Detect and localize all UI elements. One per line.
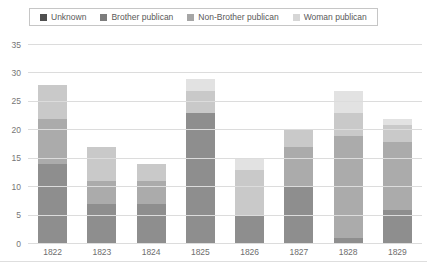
x-axis-tick-label: 1822	[28, 248, 77, 257]
plot-area: 18221823182418251826182718281829 0510152…	[28, 45, 422, 244]
bar-segment-woman-publican-1825	[186, 79, 215, 90]
bar-segment-brother-publican-1824	[137, 181, 166, 204]
gridline	[28, 158, 422, 159]
bar-stack-1826	[235, 159, 264, 244]
bar-stack-1822	[38, 85, 67, 244]
y-axis-tick-label: 0	[1, 240, 21, 249]
legend-label-brother-publican: Brother publican	[111, 12, 173, 22]
legend-item-non-brother-publican: Non-Brother publican	[187, 12, 278, 22]
gridline	[28, 72, 422, 73]
y-axis-tick-label: 25	[1, 97, 21, 106]
x-axis-tick-label: 1823	[77, 248, 126, 257]
bar-segment-unknown-1822	[38, 164, 67, 244]
legend-swatch-non-brother-publican	[187, 14, 194, 21]
x-axis-tick-label: 1824	[127, 248, 176, 257]
gridline	[28, 215, 422, 216]
bar-segment-brother-publican-1828	[334, 136, 363, 238]
x-axis-tick-label: 1827	[274, 248, 323, 257]
legend: Unknown Brother publican Non-Brother pub…	[29, 8, 378, 26]
gridline	[28, 101, 422, 102]
bar-segment-non-brother-publican-1828	[334, 113, 363, 136]
bar-stack-1823	[87, 147, 116, 244]
gridline	[28, 129, 422, 130]
y-axis-tick-label: 5	[1, 211, 21, 220]
legend-item-woman-publican: Woman publican	[293, 12, 367, 22]
legend-label-non-brother-publican: Non-Brother publican	[198, 12, 278, 22]
gridline	[28, 44, 422, 45]
y-axis-tick-label: 15	[1, 154, 21, 163]
legend-label-woman-publican: Woman publican	[304, 12, 367, 22]
x-axis-tick-label: 1826	[225, 248, 274, 257]
bar-segment-unknown-1825	[186, 113, 215, 244]
y-axis-tick-label: 35	[1, 41, 21, 50]
bar-segment-non-brother-publican-1826	[235, 170, 264, 215]
bar-segment-woman-publican-1826	[235, 159, 264, 170]
stacked-bar-chart: Unknown Brother publican Non-Brother pub…	[0, 0, 427, 271]
legend-label-unknown: Unknown	[51, 12, 86, 22]
legend-swatch-woman-publican	[293, 14, 300, 21]
bar-segment-unknown-1827	[284, 187, 313, 244]
bar-segment-unknown-1826	[235, 216, 264, 244]
bar-stack-1825	[186, 79, 215, 244]
x-axis-tick-label: 1825	[176, 248, 225, 257]
bar-segment-non-brother-publican-1829	[383, 125, 412, 142]
bar-segment-unknown-1824	[137, 204, 166, 244]
bar-segment-brother-publican-1827	[284, 147, 313, 187]
bar-segment-non-brother-publican-1822	[38, 85, 67, 119]
bar-segment-non-brother-publican-1823	[87, 147, 116, 181]
legend-swatch-brother-publican	[100, 14, 107, 21]
legend-item-brother-publican: Brother publican	[100, 12, 173, 22]
legend-item-unknown: Unknown	[40, 12, 86, 22]
gridline	[28, 243, 422, 244]
y-axis-tick-label: 10	[1, 183, 21, 192]
chart-bottom-border	[0, 261, 427, 262]
x-axis-tick-label: 1829	[373, 248, 422, 257]
bar-stack-1824	[137, 164, 166, 244]
bar-segment-non-brother-publican-1825	[186, 91, 215, 114]
bar-segment-non-brother-publican-1827	[284, 130, 313, 147]
bar-stack-1827	[284, 130, 313, 244]
bar-stack-1829	[383, 119, 412, 244]
y-axis-tick-label: 30	[1, 69, 21, 78]
y-axis-tick-label: 20	[1, 126, 21, 135]
bar-segment-brother-publican-1829	[383, 142, 412, 210]
bar-segment-non-brother-publican-1824	[137, 164, 166, 181]
bar-segment-brother-publican-1823	[87, 181, 116, 204]
x-axis-tick-label: 1828	[324, 248, 373, 257]
legend-swatch-unknown	[40, 14, 47, 21]
gridline	[28, 186, 422, 187]
bar-stack-1828	[334, 91, 363, 244]
bar-segment-unknown-1823	[87, 204, 116, 244]
bar-segment-woman-publican-1828	[334, 91, 363, 114]
